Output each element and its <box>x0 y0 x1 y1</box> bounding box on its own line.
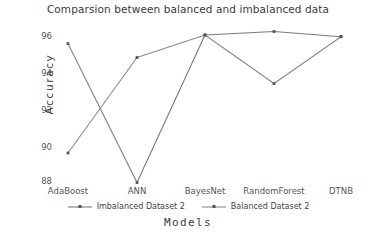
legend-item-imbalanced-dataset-2: Imbalanced Dataset 2 <box>67 202 185 211</box>
chart-legend: Imbalanced Dataset 2 Balanced Dataset 2 <box>0 202 376 211</box>
series-markers-balanced-dataset-2 <box>67 34 343 155</box>
data-point <box>273 82 276 85</box>
chart-figure: Comparsion between balanced and imbalanc… <box>0 0 376 241</box>
y-tick-label: 92 <box>6 105 52 115</box>
line-chart-svg <box>55 28 355 186</box>
y-tick-label: 96 <box>6 31 52 41</box>
y-tick-label: 90 <box>6 142 52 152</box>
legend-item-balanced-dataset-2: Balanced Dataset 2 <box>201 202 310 211</box>
data-point <box>67 42 70 45</box>
data-point <box>340 35 343 38</box>
x-tick-label-bayesnet: BayesNet <box>185 186 226 196</box>
legend-line-marker-icon <box>201 203 227 211</box>
data-point <box>136 56 139 59</box>
x-tick-label-ann: ANN <box>128 186 147 196</box>
data-point <box>67 152 70 155</box>
series-line-balanced-dataset-2 <box>68 35 341 153</box>
plot-area <box>55 28 355 186</box>
x-axis-tick-labels: AdaBoost ANN BayesNet RandomForest DTNB <box>0 186 376 200</box>
series-line-imbalanced-dataset-2 <box>68 31 341 182</box>
chart-title: Comparsion between balanced and imbalanc… <box>0 3 376 15</box>
x-axis-label: Models <box>0 216 376 229</box>
legend-line-marker-icon <box>67 203 93 211</box>
legend-label: Imbalanced Dataset 2 <box>97 202 185 211</box>
legend-label: Balanced Dataset 2 <box>231 202 310 211</box>
x-tick-label-adaboost: AdaBoost <box>48 186 88 196</box>
data-point <box>204 34 207 37</box>
data-point <box>136 181 139 184</box>
y-tick-label: 94 <box>6 68 52 78</box>
x-tick-label-dtnb: DTNB <box>329 186 353 196</box>
data-point <box>273 30 276 33</box>
series-markers-imbalanced-dataset-2 <box>67 30 343 184</box>
y-tick-label: 88 <box>6 176 52 186</box>
x-tick-label-randomforest: RandomForest <box>243 186 304 196</box>
